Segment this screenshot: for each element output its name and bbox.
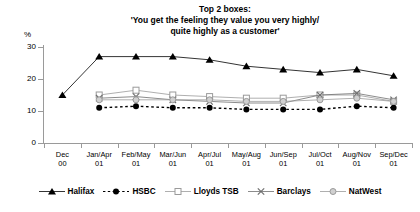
x-axis-label-period: Feb/May (122, 150, 151, 159)
x-axis-tick-label: May/Aug01 (232, 150, 261, 168)
legend-marker-open-circle-icon (320, 186, 346, 197)
x-axis-label-year: 01 (198, 159, 221, 168)
x-axis-tick (44, 143, 45, 148)
data-point-open-square (207, 94, 213, 100)
series-hsbc (96, 103, 396, 112)
series-line (99, 90, 393, 101)
data-point-filled-circle (207, 105, 213, 111)
chart-title-line-2: 'You get the feeling they value you very… (60, 15, 390, 26)
data-point-filled-triangle (353, 66, 361, 73)
x-axis-tick (228, 143, 229, 148)
data-point-filled-circle (354, 103, 360, 109)
data-point-open-circle (170, 97, 176, 103)
x-axis-label-year: 01 (309, 159, 332, 168)
data-point-open-circle (317, 97, 323, 103)
legend-label: Barclays (277, 187, 311, 196)
x-axis-label-year: 01 (343, 159, 371, 168)
data-point-cross (170, 97, 176, 103)
x-axis-label-period: Sep/Dec (379, 150, 407, 159)
data-point-open-circle (280, 98, 286, 104)
data-point-open-square (133, 87, 139, 93)
x-axis-tick (265, 143, 266, 148)
data-point-filled-triangle (58, 91, 66, 98)
x-axis-tick-label: Jul/Oct01 (309, 150, 332, 168)
x-axis-tick-label: Jun/Sep01 (270, 150, 297, 168)
x-axis-tick-label: Sep/Dec01 (379, 150, 407, 168)
y-axis-tick (38, 47, 44, 48)
data-point-open-circle (330, 189, 336, 195)
data-point-filled-circle (317, 106, 323, 112)
data-point-cross (206, 98, 212, 104)
series-natwest (96, 95, 396, 104)
x-axis-tick-label: Jan/Apr01 (86, 150, 111, 168)
data-point-filled-triangle (316, 69, 324, 76)
x-axis-tick (302, 143, 303, 148)
legend-item-lloyds-tsb[interactable]: Lloyds TSB (165, 186, 239, 197)
data-point-cross (280, 100, 286, 106)
x-axis-label-year: 01 (159, 159, 186, 168)
legend-marker-cross-icon (248, 186, 274, 197)
data-point-open-circle (243, 98, 249, 104)
data-point-open-circle (354, 95, 360, 101)
data-point-open-square (243, 95, 249, 101)
legend-marker-open-square-icon (165, 186, 191, 197)
y-axis-tick (38, 79, 44, 80)
data-point-filled-triangle (132, 53, 140, 60)
x-axis-tick-label: Feb/May01 (122, 150, 151, 168)
data-point-open-circle (133, 97, 139, 103)
y-axis-line (43, 45, 44, 144)
chart-title-line-1: Top 2 boxes: (60, 4, 390, 15)
series-line (99, 98, 393, 101)
x-axis-label-period: Jul/Oct (309, 150, 332, 159)
x-axis-tick-label: Aug/Nov01 (343, 150, 371, 168)
data-point-filled-triangle (242, 63, 250, 70)
data-point-filled-circle (96, 105, 102, 111)
series-halifax (58, 53, 397, 98)
x-axis-label-period: Jan/Apr (86, 150, 111, 159)
data-point-open-circle (96, 97, 102, 103)
x-axis-label-period: Mar/Jun (159, 150, 186, 159)
data-point-filled-triangle (279, 66, 287, 73)
data-point-filled-circle (391, 105, 397, 111)
data-point-cross (243, 100, 249, 106)
legend-item-barclays[interactable]: Barclays (248, 186, 311, 197)
x-axis-label-year: 01 (232, 159, 261, 168)
data-point-open-square (317, 92, 323, 98)
series-line (99, 93, 393, 103)
data-point-filled-circle (280, 106, 286, 112)
legend-item-halifax[interactable]: Halifax (39, 186, 95, 197)
y-axis-tick-label: 30 (16, 42, 36, 51)
x-axis-tick-label: Apr/Jul01 (198, 150, 221, 168)
data-point-cross (96, 95, 102, 101)
data-point-filled-triangle (169, 53, 177, 60)
legend-marker-filled-circle-icon (103, 186, 129, 197)
legend-label: NatWest (349, 187, 382, 196)
x-axis-tick (191, 143, 192, 148)
data-point-open-square (280, 95, 286, 101)
y-axis-tick-label: 0 (16, 138, 36, 147)
x-axis-tick (412, 143, 413, 148)
chart-legend: HalifaxHSBCLloyds TSBBarclaysNatWest (0, 186, 420, 197)
y-axis-unit-label: % (24, 30, 31, 39)
y-axis-tick (38, 111, 44, 112)
x-axis-label-period: Aug/Nov (343, 150, 371, 159)
series-barclays (96, 90, 397, 106)
data-point-open-circle (391, 98, 397, 104)
x-axis-label-year: 01 (379, 159, 407, 168)
x-axis-tick-label: Mar/Jun01 (159, 150, 186, 168)
x-axis-label-year: 01 (122, 159, 151, 168)
legend-item-natwest[interactable]: NatWest (320, 186, 382, 197)
legend-item-hsbc[interactable]: HSBC (103, 186, 155, 197)
data-point-cross (354, 90, 360, 96)
data-point-filled-circle (243, 106, 249, 112)
data-point-cross (317, 92, 323, 98)
x-axis-tick (338, 143, 339, 148)
series-line (62, 57, 393, 95)
data-point-filled-triangle (206, 56, 214, 63)
data-point-filled-circle (170, 105, 176, 111)
x-axis-label-period: Apr/Jul (198, 150, 221, 159)
x-axis-tick-label: Dec00 (56, 150, 69, 168)
chart-container: Top 2 boxes: 'You get the feeling they v… (0, 0, 420, 212)
y-axis-tick-label: 10 (16, 106, 36, 115)
x-axis-label-period: Jun/Sep (270, 150, 297, 159)
